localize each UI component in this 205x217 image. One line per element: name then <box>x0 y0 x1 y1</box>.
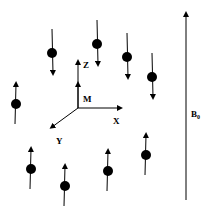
spin-particle <box>122 52 132 62</box>
spin-up <box>141 135 151 175</box>
spins-group <box>11 20 157 206</box>
spin-down <box>147 53 157 97</box>
magnetization-label: M <box>83 94 92 104</box>
x-axis-label: X <box>113 116 120 126</box>
axes: Z M X Y <box>52 60 120 146</box>
z-axis-label: Z <box>83 60 89 70</box>
spin-up <box>26 149 36 189</box>
spin-down <box>122 33 132 77</box>
spin-particle <box>92 39 102 49</box>
spin-down <box>92 20 102 64</box>
spin-up <box>60 166 70 206</box>
spin-particle <box>47 48 57 58</box>
spin-diagram: Z M X Y B0 <box>0 0 205 217</box>
spin-up <box>103 151 113 191</box>
b0-label: B0 <box>191 109 200 120</box>
spin-particle <box>147 72 157 82</box>
y-axis-label: Y <box>56 136 63 146</box>
spin-particle <box>103 166 113 176</box>
b0-label-subscript: 0 <box>197 114 200 120</box>
spin-particle <box>141 150 151 160</box>
spin-up <box>11 84 21 124</box>
y-axis <box>52 108 78 127</box>
spin-down <box>47 29 57 73</box>
spin-particle <box>11 99 21 109</box>
b0-field: B0 <box>186 14 200 200</box>
spin-particle <box>60 181 70 191</box>
spin-particle <box>26 164 36 174</box>
